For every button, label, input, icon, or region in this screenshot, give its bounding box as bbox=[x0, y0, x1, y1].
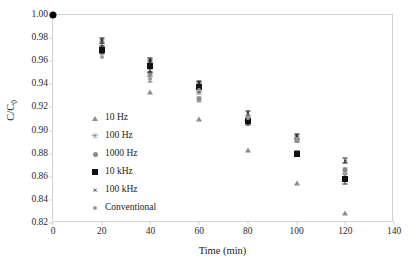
error-bar-cap bbox=[343, 158, 348, 159]
error-bar-cap bbox=[148, 57, 153, 58]
data-point bbox=[196, 117, 202, 122]
error-bar-cap bbox=[294, 138, 299, 139]
data-point bbox=[100, 55, 104, 59]
data-point bbox=[342, 210, 348, 215]
y-tick-mark bbox=[49, 15, 53, 16]
data-point bbox=[245, 148, 251, 153]
legend-marker-star-icon: ✳ bbox=[87, 134, 103, 138]
y-tick-mark bbox=[49, 176, 53, 177]
error-bar-cap bbox=[294, 151, 299, 152]
error-bar-cap bbox=[99, 42, 104, 43]
chart-legend: 10 Hz✳100 Hz1000 Hz10 kHz×100 kHzConvent… bbox=[87, 109, 156, 217]
error-bar-cap bbox=[343, 167, 348, 168]
error-bar-cap bbox=[197, 86, 202, 87]
x-tick-mark bbox=[394, 221, 395, 225]
x-axis-title: Time (min) bbox=[52, 246, 393, 257]
error-bar-cap bbox=[245, 110, 250, 111]
y-tick-mark bbox=[49, 61, 53, 62]
x-tick-mark bbox=[150, 221, 151, 225]
error-bar-cap bbox=[343, 172, 348, 173]
error-bar-cap bbox=[99, 38, 104, 39]
legend-marker-square-icon bbox=[87, 169, 103, 175]
error-bar-cap bbox=[197, 97, 202, 98]
data-point bbox=[147, 90, 153, 95]
y-tick-mark bbox=[49, 130, 53, 131]
legend-label: 10 Hz bbox=[103, 113, 128, 123]
legend-label: 1000 Hz bbox=[103, 149, 137, 159]
y-tick-mark bbox=[49, 107, 53, 108]
plot-area: 0.820.840.860.880.900.920.940.960.981.00… bbox=[52, 14, 393, 222]
legend-item: Conventional bbox=[87, 199, 156, 217]
error-bar-cap bbox=[343, 174, 348, 175]
chart-figure: C/C0 0.820.840.860.880.900.920.940.960.9… bbox=[0, 0, 411, 271]
legend-label: 100 Hz bbox=[103, 131, 133, 141]
error-bar-cap bbox=[197, 92, 202, 93]
legend-item: ×100 kHz bbox=[87, 181, 156, 199]
error-bar-cap bbox=[99, 46, 104, 47]
error-bar-cap bbox=[197, 93, 202, 94]
x-tick-mark bbox=[101, 221, 102, 225]
legend-marker-cross-icon: × bbox=[87, 188, 103, 193]
legend-marker-triangle-icon bbox=[87, 116, 103, 121]
error-bar-cap bbox=[197, 101, 202, 102]
error-bar-cap bbox=[245, 117, 250, 118]
error-bar-cap bbox=[343, 183, 348, 184]
y-axis-title: C/C0 bbox=[6, 80, 19, 140]
plot-canvas: 0.820.840.860.880.900.920.940.960.981.00… bbox=[53, 15, 392, 221]
error-bar-cap bbox=[99, 54, 104, 55]
y-tick-mark bbox=[49, 199, 53, 200]
error-bar-cap bbox=[148, 76, 153, 77]
legend-item: 1000 Hz bbox=[87, 145, 156, 163]
error-bar-cap bbox=[197, 82, 202, 83]
error-bar-cap bbox=[148, 82, 153, 83]
y-tick-mark bbox=[49, 84, 53, 85]
error-bar-cap bbox=[294, 134, 299, 135]
legend-label: 100 kHz bbox=[103, 185, 137, 195]
legend-marker-circle-icon bbox=[87, 152, 103, 157]
legend-label: Conventional bbox=[103, 203, 156, 213]
x-tick-mark bbox=[247, 221, 248, 225]
y-axis-title-main: C/C bbox=[5, 104, 16, 121]
error-bar-cap bbox=[245, 124, 250, 125]
y-axis-title-sub: 0 bbox=[10, 100, 19, 104]
x-tick-mark bbox=[53, 221, 54, 225]
legend-item: ✳100 Hz bbox=[87, 127, 156, 145]
legend-item: 10 kHz bbox=[87, 163, 156, 181]
legend-marker-dot-icon bbox=[87, 206, 103, 210]
y-tick-mark bbox=[49, 38, 53, 39]
x-tick-mark bbox=[345, 221, 346, 225]
x-tick-mark bbox=[296, 221, 297, 225]
error-bar-cap bbox=[99, 53, 104, 54]
x-tick-mark bbox=[199, 221, 200, 225]
data-point bbox=[294, 180, 300, 185]
error-bar-cap bbox=[343, 162, 348, 163]
error-bar-cap bbox=[148, 71, 153, 72]
error-bar-cap bbox=[294, 142, 299, 143]
legend-label: 10 kHz bbox=[103, 167, 133, 177]
legend-item: 10 Hz bbox=[87, 109, 156, 127]
y-tick-mark bbox=[49, 153, 53, 154]
error-bar-cap bbox=[148, 62, 153, 63]
error-bar-cap bbox=[245, 115, 250, 116]
error-bar-cap bbox=[294, 155, 299, 156]
